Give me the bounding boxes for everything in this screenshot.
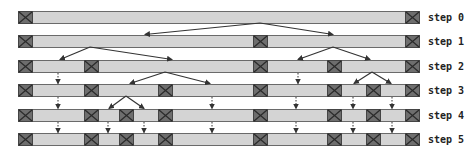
step-row: step 4 (19, 110, 465, 122)
x-box-icon (120, 110, 134, 122)
step-label: step 1 (428, 36, 464, 47)
step-row: step 1 (19, 36, 465, 48)
split-arrow (109, 96, 126, 109)
step-label: step 0 (428, 12, 464, 23)
x-box-icon (19, 85, 33, 97)
x-box-icon (254, 36, 268, 48)
bar (19, 12, 420, 24)
step-label: step 5 (428, 134, 464, 145)
step-row: step 0 (19, 12, 465, 24)
x-box-icon (85, 61, 99, 73)
split-arrow (145, 23, 260, 35)
split-arrow (354, 72, 372, 84)
x-box-icon (254, 134, 268, 146)
split-arrow (298, 47, 333, 60)
x-box-icon (159, 110, 173, 122)
binary-split-diagram: step 0step 1step 2step 3step 4step 5 (0, 0, 472, 157)
x-box-icon (406, 110, 420, 122)
split-arrow (60, 47, 90, 60)
x-box-icon (19, 61, 33, 73)
bar (19, 85, 420, 97)
x-box-icon (85, 134, 99, 146)
x-box-icon (328, 110, 342, 122)
x-box-icon (85, 85, 99, 97)
x-box-icon (159, 85, 173, 97)
x-box-icon (85, 110, 99, 122)
split-arrow (260, 23, 333, 35)
step-row: step 5 (19, 134, 465, 146)
split-arrow (372, 72, 391, 84)
x-box-icon (406, 134, 420, 146)
x-box-icon (19, 12, 33, 24)
x-box-icon (159, 134, 173, 146)
x-box-icon (19, 134, 33, 146)
bar (19, 134, 420, 146)
split-arrow (333, 47, 370, 60)
x-box-icon (328, 134, 342, 146)
step-label: step 3 (428, 85, 464, 96)
split-arrow (165, 72, 210, 84)
split-arrow (130, 72, 165, 84)
x-box-icon (406, 36, 420, 48)
step-rows: step 0step 1step 2step 3step 4step 5 (19, 12, 465, 146)
step-row: step 2 (19, 61, 465, 73)
step-label: step 4 (428, 110, 464, 121)
x-box-icon (406, 12, 420, 24)
x-box-icon (254, 85, 268, 97)
x-box-icon (254, 61, 268, 73)
x-box-icon (406, 61, 420, 73)
split-arrow (90, 47, 172, 60)
x-box-icon (367, 134, 381, 146)
x-box-icon (367, 85, 381, 97)
split-arrow (126, 96, 144, 109)
step-row: step 3 (19, 85, 465, 97)
x-box-icon (328, 61, 342, 73)
bar (19, 36, 420, 48)
carry-arrows (58, 73, 392, 133)
x-box-icon (120, 134, 134, 146)
bar (19, 110, 420, 122)
x-box-icon (328, 85, 342, 97)
step-label: step 2 (428, 61, 464, 72)
x-box-icon (19, 36, 33, 48)
x-box-icon (19, 110, 33, 122)
x-box-icon (406, 85, 420, 97)
bar (19, 61, 420, 73)
x-box-icon (367, 110, 381, 122)
x-box-icon (254, 110, 268, 122)
